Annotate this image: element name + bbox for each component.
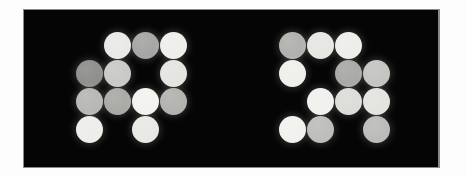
disc xyxy=(335,60,362,87)
disc xyxy=(307,88,334,115)
disc xyxy=(307,116,334,143)
right-cluster xyxy=(24,10,438,167)
disc xyxy=(363,116,390,143)
disc xyxy=(279,116,306,143)
disc xyxy=(335,32,362,59)
image-canvas xyxy=(0,0,466,177)
black-panel xyxy=(24,10,438,167)
disc xyxy=(279,60,306,87)
disc xyxy=(307,32,334,59)
disc xyxy=(363,88,390,115)
disc xyxy=(363,60,390,87)
disc xyxy=(279,32,306,59)
disc xyxy=(335,88,362,115)
